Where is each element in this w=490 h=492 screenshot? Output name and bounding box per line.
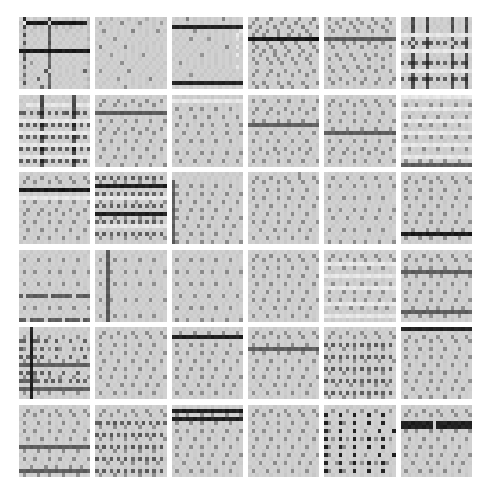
heatmap-panel	[324, 17, 395, 90]
heatmap-panel	[172, 327, 243, 400]
heatmap-panel	[324, 250, 395, 323]
heatmap-panel	[401, 327, 472, 400]
heatmap-cell	[163, 473, 167, 477]
heatmap-panel	[95, 17, 166, 90]
heatmap-cells	[248, 17, 319, 90]
heatmap-cells	[95, 327, 166, 400]
heatmap-cell	[392, 163, 396, 167]
heatmap-panel	[95, 172, 166, 245]
heatmap-cells	[248, 327, 319, 400]
heatmap-panel	[95, 95, 166, 168]
heatmap-cells	[324, 172, 395, 245]
heatmap-cells	[248, 95, 319, 168]
heatmap-panel	[172, 405, 243, 478]
heatmap-panel	[19, 17, 90, 90]
heatmap-panel	[324, 172, 395, 245]
heatmap-cell	[239, 163, 243, 167]
heatmap-panel	[172, 250, 243, 323]
heatmap-cells	[172, 405, 243, 478]
heatmap-panel	[401, 17, 472, 90]
heatmap-panel	[248, 17, 319, 90]
heatmap-cell	[239, 85, 243, 89]
heatmap-cells	[95, 17, 166, 90]
heatmap-panel	[95, 327, 166, 400]
heatmap-cells	[324, 405, 395, 478]
heatmap-cells	[95, 250, 166, 323]
heatmap-cells	[95, 95, 166, 168]
heatmap-panel	[172, 172, 243, 245]
heatmap-cell	[392, 85, 396, 89]
heatmap-cells	[324, 250, 395, 323]
heatmap-cells	[401, 327, 472, 400]
heatmap-cells	[248, 405, 319, 478]
heatmap-cell	[163, 318, 167, 322]
heatmap-cell	[392, 473, 396, 477]
heatmap-cell	[316, 473, 320, 477]
heatmap-cell	[316, 163, 320, 167]
heatmap-cells	[401, 95, 472, 168]
heatmap-cell	[87, 318, 91, 322]
heatmap-cells	[19, 250, 90, 323]
heatmap-panel	[19, 327, 90, 400]
heatmap-cells	[324, 17, 395, 90]
heatmap-cell	[163, 240, 167, 244]
heatmap-panel	[172, 95, 243, 168]
heatmap-panel	[19, 405, 90, 478]
heatmap-panel	[401, 250, 472, 323]
heatmap-grid-figure	[0, 0, 490, 492]
heatmap-cells	[172, 95, 243, 168]
heatmap-panel	[248, 405, 319, 478]
heatmap-cell	[87, 240, 91, 244]
heatmap-cell	[468, 85, 472, 89]
heatmap-cell	[87, 395, 91, 399]
heatmap-cell	[239, 395, 243, 399]
heatmap-cell	[316, 85, 320, 89]
heatmap-cells	[19, 405, 90, 478]
heatmap-panel	[248, 327, 319, 400]
heatmap-cells	[95, 405, 166, 478]
heatmap-cells	[95, 172, 166, 245]
heatmap-panel	[401, 172, 472, 245]
heatmap-panel	[19, 250, 90, 323]
heatmap-panel	[401, 95, 472, 168]
heatmap-cell	[87, 473, 91, 477]
heatmap-cell	[316, 318, 320, 322]
heatmap-cell	[468, 240, 472, 244]
heatmap-cell	[316, 395, 320, 399]
heatmap-panel	[19, 172, 90, 245]
heatmap-cells	[19, 327, 90, 400]
heatmap-cell	[316, 240, 320, 244]
heatmap-cells	[401, 17, 472, 90]
heatmap-cell	[87, 163, 91, 167]
heatmap-cell	[163, 85, 167, 89]
heatmap-panel	[324, 327, 395, 400]
heatmap-cells	[401, 250, 472, 323]
heatmap-cell	[163, 395, 167, 399]
heatmap-panel	[172, 17, 243, 90]
heatmap-panel	[248, 172, 319, 245]
heatmap-cell	[239, 240, 243, 244]
heatmap-cells	[324, 327, 395, 400]
heatmap-cells	[401, 405, 472, 478]
heatmap-cells	[172, 17, 243, 90]
heatmap-cell	[468, 395, 472, 399]
heatmap-cells	[172, 327, 243, 400]
heatmap-cells	[19, 17, 90, 90]
heatmap-cell	[239, 473, 243, 477]
heatmap-cells	[248, 172, 319, 245]
heatmap-panel	[95, 250, 166, 323]
heatmap-cell	[468, 473, 472, 477]
heatmap-cell	[468, 163, 472, 167]
heatmap-panel	[95, 405, 166, 478]
heatmap-cell	[239, 318, 243, 322]
heatmap-cells	[248, 250, 319, 323]
heatmap-cells	[19, 95, 90, 168]
heatmap-panel	[324, 95, 395, 168]
heatmap-cells	[172, 172, 243, 245]
heatmap-panel	[401, 405, 472, 478]
heatmap-panel	[248, 250, 319, 323]
heatmap-panel	[248, 95, 319, 168]
heatmap-cell	[468, 318, 472, 322]
heatmap-cells	[172, 250, 243, 323]
heatmap-cell	[392, 395, 396, 399]
